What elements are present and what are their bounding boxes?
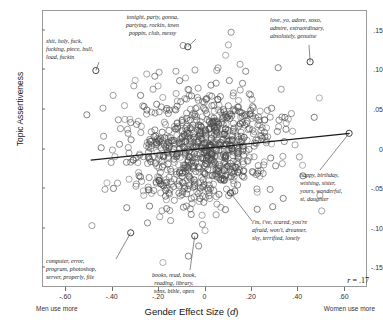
y-axis-title: Topic Assertiveness: [15, 59, 25, 159]
x-axis-left-end-label: Men use more: [36, 305, 78, 312]
x-tick-label: -.40: [106, 293, 118, 300]
y-tick-mark: [42, 227, 45, 228]
x-tick-label: -.60: [59, 293, 71, 300]
correlation-value: = .17: [350, 276, 369, 285]
x-tick-label: .20: [246, 293, 256, 300]
y-tick-mark: [42, 29, 45, 30]
x-tick-mark: [344, 287, 345, 291]
annotation-love: love, yo, adore, xoxo, admire, extraordi…: [270, 17, 324, 41]
x-axis-title-paren: ): [235, 306, 238, 317]
y-tick-label: -.10: [345, 224, 383, 231]
y-tick-label: -.05: [345, 185, 383, 192]
x-tick-mark: [205, 287, 206, 291]
annotation-birthday: happy, birthday, wishing, sister, yours,…: [300, 172, 342, 204]
correlation-label: r = .17: [347, 276, 369, 285]
x-tick-label: 0: [203, 293, 207, 300]
y-tick-mark: [42, 69, 45, 70]
annotation-partying: tonight, party, gonna, partying, rockin,…: [126, 14, 179, 38]
x-axis-right-end-label: Women use more: [324, 305, 375, 312]
x-tick-mark: [251, 287, 252, 291]
y-tick-label: 0: [345, 145, 383, 152]
y-tick-mark: [42, 188, 45, 189]
y-tick-mark: [42, 267, 45, 268]
x-tick-label: .40: [292, 293, 302, 300]
y-tick-label: -.15: [345, 264, 383, 271]
y-tick-mark: [42, 108, 45, 109]
x-tick-mark: [112, 287, 113, 291]
annotation-profanity: shit, holy, fuck, fucking, piece, bull, …: [46, 38, 93, 62]
annotation-fear: i'm, i've, scared, you're afraid, won't,…: [252, 219, 307, 243]
y-tick-mark: [42, 148, 45, 149]
annotation-computer: computer, error, program, photoshop, ser…: [46, 258, 96, 282]
x-tick-mark: [65, 287, 66, 291]
y-tick-label: .10: [345, 66, 383, 73]
x-axis-title-text: Gender Effect Size (: [145, 306, 230, 317]
y-tick-label: .15: [345, 26, 383, 33]
x-tick-mark: [297, 287, 298, 291]
y-tick-label: .05: [345, 105, 383, 112]
scatter-plot-figure: Topic Assertiveness Gender Effect Size (…: [0, 0, 383, 332]
x-tick-label: .60: [339, 293, 349, 300]
annotation-books: books, read, book, reading, library, son…: [152, 272, 196, 296]
